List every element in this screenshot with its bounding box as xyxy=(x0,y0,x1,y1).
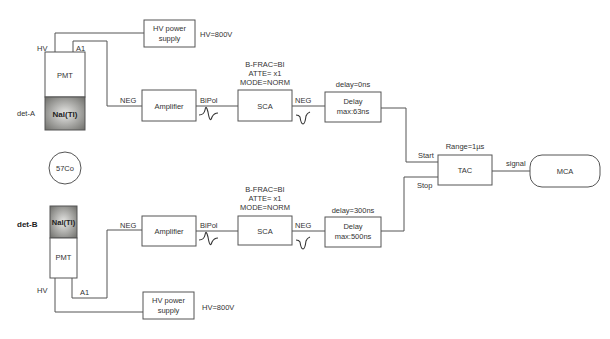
sca-b-setting-2: ATTE= x1 xyxy=(249,194,282,203)
delay-a-label-1: Delay xyxy=(343,97,362,106)
tac-block: Range=1µs TAC Start Stop signal xyxy=(417,142,526,190)
a1-pin-a-label: A1 xyxy=(76,44,85,53)
hv-setting-b: HV=800V xyxy=(202,303,234,312)
delay-a-setting: delay=0ns xyxy=(336,80,371,89)
sca-b-output-label: NEG xyxy=(295,221,311,230)
mca-label: MCA xyxy=(557,167,574,176)
amplifier-a-label: Amplifier xyxy=(154,102,184,111)
amp-a-input-label: NEG xyxy=(120,96,136,105)
sca-a-setting-1: B-FRAC=BI xyxy=(245,60,284,69)
delay-b-setting: delay=300ns xyxy=(332,206,375,215)
bipolar-pulse-a-icon xyxy=(199,107,218,119)
hv-supply-b-label-2: supply xyxy=(158,306,180,315)
branch-a: HV power supply HV=800V NEG Amplifier Bi… xyxy=(120,20,381,124)
hv-pin-b-label: HV xyxy=(37,286,47,295)
tac-range-label: Range=1µs xyxy=(446,142,485,151)
det-b-label: det-B xyxy=(17,220,38,229)
sca-b-label: SCA xyxy=(257,227,272,236)
tac-stop-label: Stop xyxy=(417,181,432,190)
delay-a-label-2: max:63ns xyxy=(337,107,370,116)
hv-setting-a: HV=800V xyxy=(200,30,232,39)
nai-b-label: NaI(Tl) xyxy=(52,218,76,227)
a1-pin-b-label: A1 xyxy=(80,288,89,297)
detector-a: PMT NaI(Tl) HV A1 det-A xyxy=(17,44,85,130)
branch-b: NEG Amplifier BiPol B-FRAC=BI ATTE= x1 M… xyxy=(120,185,381,319)
hv-supply-a-label-2: supply xyxy=(159,34,181,43)
bipolar-pulse-b-icon xyxy=(199,232,218,244)
amp-a-output-label: BiPol xyxy=(200,96,218,105)
nai-a-label: NaI(Tl) xyxy=(53,110,78,119)
delay-b-label-2: max:500ns xyxy=(335,232,372,241)
detector-b: NaI(Tl) PMT HV A1 det-B xyxy=(17,206,89,297)
hv-supply-b-label-1: HV power xyxy=(152,296,185,305)
mca-block: MCA xyxy=(530,155,600,187)
pmt-a-label: PMT xyxy=(57,71,73,80)
tac-start-label: Start xyxy=(418,151,435,160)
tac-output-label: signal xyxy=(506,159,526,168)
amplifier-b-label: Amplifier xyxy=(154,227,184,236)
amp-b-output-label: BiPol xyxy=(200,221,218,230)
pmt-b-label: PMT xyxy=(56,253,72,262)
sca-a-setting-3: MODE=NORM xyxy=(240,78,290,87)
source-label: 57Co xyxy=(56,164,74,173)
sca-a-label: SCA xyxy=(257,102,272,111)
diagram-canvas: PMT NaI(Tl) HV A1 det-A 57Co NaI(Tl) PMT… xyxy=(0,0,610,339)
sca-b-setting-3: MODE=NORM xyxy=(240,203,290,212)
negative-pulse-b-icon xyxy=(296,237,310,249)
sca-a-setting-2: ATTE= x1 xyxy=(249,69,282,78)
amp-b-input-label: NEG xyxy=(120,221,136,230)
sca-a-output-label: NEG xyxy=(295,96,311,105)
negative-pulse-a-icon xyxy=(296,112,310,124)
tac-label: TAC xyxy=(458,166,473,175)
det-a-label: det-A xyxy=(17,109,35,118)
hv-supply-a-label-1: HV power xyxy=(153,24,186,33)
hv-pin-a-label: HV xyxy=(37,44,47,53)
source-57co: 57Co xyxy=(49,152,81,184)
delay-b-label-1: Delay xyxy=(343,222,362,231)
sca-b-setting-1: B-FRAC=BI xyxy=(245,185,284,194)
